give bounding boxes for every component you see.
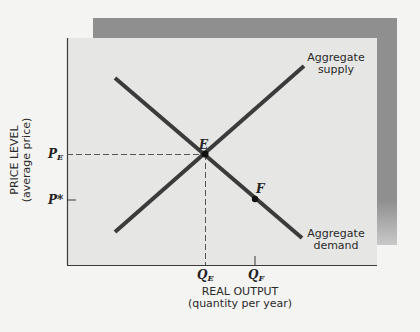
tick-label-qe-sub: E [207, 273, 213, 283]
tick-label-qf: QF [248, 269, 264, 284]
point-f-marker [252, 196, 258, 202]
tick-label-pstar: P* [48, 194, 63, 206]
aggregate-demand-curve [115, 78, 302, 238]
supply-label-line2: supply [306, 64, 366, 76]
tick-label-pe-sub: E [57, 152, 63, 162]
supply-label: Aggregate supply [306, 52, 366, 76]
tick-label-qf-sub: F [258, 273, 264, 283]
demand-label: Aggregate demand [306, 228, 366, 252]
y-axis-sublabel: (average price) [21, 105, 33, 215]
aggregate-supply-curve [115, 66, 304, 232]
point-e-label: E [199, 139, 208, 151]
tick-label-pe-main: P [48, 147, 57, 161]
tick-label-pe: PE [48, 148, 63, 163]
x-axis-title: REAL OUTPUT (quantity per year) [180, 286, 300, 310]
tick-label-qf-main: Q [248, 268, 258, 282]
y-axis-title: PRICE LEVEL (average price) [9, 105, 33, 215]
point-f-label: F [256, 183, 265, 195]
x-axis-sublabel: (quantity per year) [180, 298, 300, 310]
tick-label-qe: QE [197, 269, 214, 284]
tick-label-qe-main: Q [197, 268, 207, 282]
demand-label-line2: demand [306, 240, 366, 252]
